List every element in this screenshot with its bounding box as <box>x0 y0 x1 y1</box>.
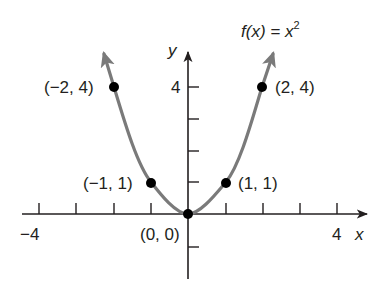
function-label: f(x) = x2 <box>241 19 300 41</box>
y-axis-ticks <box>188 87 199 247</box>
x-tick-label-neg4: −4 <box>20 225 39 244</box>
parabola-curve <box>101 0 201 130</box>
parabola-chart: (−2, 4) (−1, 1) (0, 0) (1, 1) (2, 4) y 4… <box>0 0 380 288</box>
point-0-0 <box>183 209 193 219</box>
point-neg2-4 <box>109 82 119 92</box>
point-label-1-1: (1, 1) <box>238 174 278 193</box>
function-label-text: f(x) = x <box>241 22 294 41</box>
x-tick-label-4: 4 <box>332 225 341 244</box>
point-label-neg2-4: (−2, 4) <box>44 78 94 97</box>
point-label-neg1-1: (−1, 1) <box>83 174 133 193</box>
point-label-2-4: (2, 4) <box>275 78 315 97</box>
function-label-exponent: 2 <box>293 19 299 31</box>
point-2-4 <box>257 82 267 92</box>
point-1-1 <box>221 178 231 188</box>
y-axis-label: y <box>167 41 178 60</box>
y-tick-label-4: 4 <box>171 78 180 97</box>
point-neg1-1 <box>146 178 156 188</box>
x-axis-label: x <box>354 225 364 244</box>
point-label-0-0: (0, 0) <box>140 225 180 244</box>
